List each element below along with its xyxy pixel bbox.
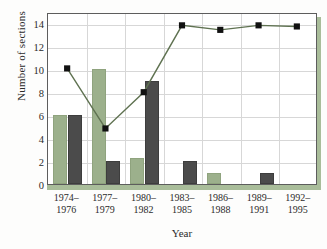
gridline-vertical	[279, 14, 280, 184]
line-series-layer	[48, 14, 316, 184]
x-tick-label: 1989–1991	[240, 192, 279, 216]
plot-area	[47, 13, 317, 185]
bar-dark	[260, 173, 274, 184]
x-tick-label-line: 1983–	[163, 192, 202, 204]
gridline-vertical	[87, 14, 88, 184]
gridline-vertical	[164, 14, 165, 184]
bar-green	[207, 173, 221, 184]
bar-dark	[145, 81, 159, 184]
x-tick-label-line: 1986–	[201, 192, 240, 204]
bar-dark	[183, 161, 197, 184]
y-axis-tick-labels: 02468101214	[20, 13, 44, 185]
gridline-horizontal	[48, 163, 316, 164]
x-tick-label: 1986–1988	[201, 192, 240, 216]
y-tick-label: 4	[22, 134, 44, 145]
x-tick-label-line: 1995	[278, 204, 317, 216]
line-marker	[294, 23, 300, 29]
bar-dark	[106, 161, 120, 184]
x-tick-label-line: 1976	[47, 204, 86, 216]
x-tick-label-line: 1985	[163, 204, 202, 216]
axis-baseline-band	[47, 185, 321, 190]
y-tick-label: 6	[22, 111, 44, 122]
x-tick-label-line: 1988	[201, 204, 240, 216]
x-tick-label-line: 1974–	[47, 192, 86, 204]
gridline-vertical	[202, 14, 203, 184]
x-tick-label-line: 1992–	[278, 192, 317, 204]
x-tick-label-line: 1980–	[124, 192, 163, 204]
x-axis-title: Year	[47, 227, 317, 239]
x-axis-tick-labels: 1974–19761977–19791980–19821983–19851986…	[47, 192, 317, 224]
gridline-horizontal	[48, 140, 316, 141]
line-marker	[217, 27, 223, 33]
bar-green	[130, 158, 144, 184]
x-tick-label-line: 1989–	[240, 192, 279, 204]
y-tick-label: 12	[22, 42, 44, 53]
x-tick-label-line: 1991	[240, 204, 279, 216]
gridline-horizontal	[48, 94, 316, 95]
x-tick-label-line: 1982	[124, 204, 163, 216]
gridline-horizontal	[48, 48, 316, 49]
x-tick-label: 1974–1976	[47, 192, 86, 216]
gridline-vertical	[125, 14, 126, 184]
bar-green	[92, 69, 106, 184]
x-tick-label-line: 1979	[86, 204, 125, 216]
y-tick-label: 14	[22, 19, 44, 30]
y-tick-label: 8	[22, 88, 44, 99]
bar-dark	[68, 115, 82, 184]
x-tick-label-line: 1977–	[86, 192, 125, 204]
bar-green	[53, 115, 67, 184]
gridline-vertical	[241, 14, 242, 184]
y-tick-label: 0	[22, 180, 44, 191]
gridline-horizontal	[48, 25, 316, 26]
gridline-horizontal	[48, 71, 316, 72]
x-tick-label: 1992–1995	[278, 192, 317, 216]
x-tick-label: 1980–1982	[124, 192, 163, 216]
y-tick-label: 10	[22, 65, 44, 76]
x-tick-label: 1983–1985	[163, 192, 202, 216]
chart-container: Number of sections 02468101214 1974–1976…	[0, 0, 327, 249]
y-tick-label: 2	[22, 157, 44, 168]
gridline-horizontal	[48, 117, 316, 118]
x-tick-label: 1977–1979	[86, 192, 125, 216]
